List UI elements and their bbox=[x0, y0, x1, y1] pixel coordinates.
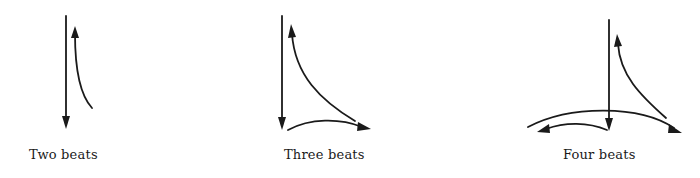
beat-two-stroke bbox=[288, 121, 362, 130]
arrow-left-icon bbox=[537, 124, 550, 133]
arrow-up-icon bbox=[71, 26, 79, 38]
arrow-right-icon bbox=[668, 124, 682, 133]
label-three-beats: Three beats bbox=[284, 147, 365, 162]
label-four-beats: Four beats bbox=[563, 147, 636, 162]
label-two-beats: Two beats bbox=[29, 147, 98, 162]
upbeat-stroke bbox=[618, 44, 666, 118]
arrow-down-icon bbox=[62, 116, 70, 129]
arrow-down-icon bbox=[278, 117, 286, 130]
upbeat-stroke bbox=[292, 34, 355, 121]
pattern-three-beats bbox=[278, 16, 371, 131]
arrow-up-icon bbox=[614, 34, 622, 47]
upbeat-stroke bbox=[75, 34, 92, 108]
pattern-four-beats bbox=[528, 20, 682, 133]
beat-two-stroke bbox=[546, 124, 607, 130]
arrow-right-icon bbox=[357, 122, 371, 131]
beat-three-stroke bbox=[528, 111, 674, 128]
pattern-two-beats bbox=[62, 16, 92, 129]
arrow-up-icon bbox=[288, 24, 296, 38]
